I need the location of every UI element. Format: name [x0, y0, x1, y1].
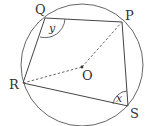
angle-label-x: x — [116, 92, 123, 105]
label-q: Q — [35, 2, 46, 17]
quadrilateral-pqrs — [23, 18, 128, 106]
label-r: R — [9, 77, 20, 92]
circle-diagram: Q P R S O y x — [0, 0, 146, 126]
label-o: O — [82, 68, 93, 83]
dashed-segment-op — [82, 22, 122, 67]
angle-label-y: y — [48, 22, 56, 35]
label-p: P — [125, 8, 134, 23]
dashed-segment-ro — [23, 67, 82, 83]
label-s: S — [130, 106, 139, 121]
